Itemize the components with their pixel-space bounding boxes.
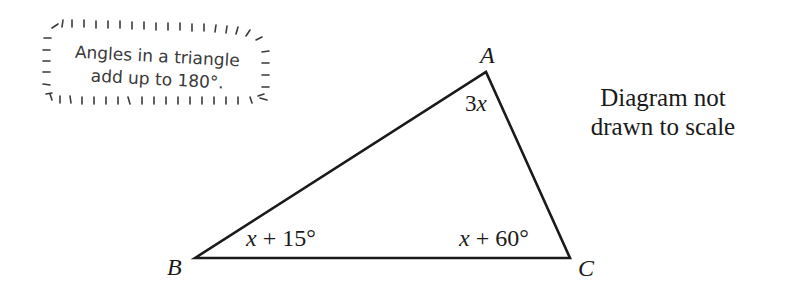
angle-label-b: x + 15°	[245, 225, 316, 251]
note-line-2: drawn to scale	[591, 113, 735, 140]
note-line-1: Diagram not	[600, 84, 726, 111]
angle-label-c: x + 60°	[458, 225, 529, 251]
vertex-label-c: C	[578, 255, 595, 281]
diagram-canvas: Angles in a triangle add up to 180°. A B…	[0, 0, 798, 306]
vertex-label-a: A	[478, 42, 495, 68]
diagram-svg: Angles in a triangle add up to 180°. A B…	[0, 0, 798, 306]
hint-line-2: add up to 180°.	[90, 66, 224, 93]
angle-label-a: 3x	[465, 91, 488, 116]
vertex-label-b: B	[167, 254, 182, 280]
